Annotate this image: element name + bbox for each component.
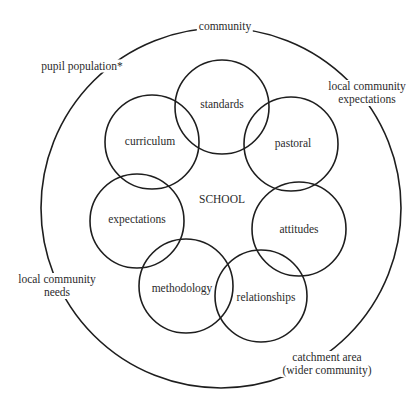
label-local-community-needs: local community needs [16, 273, 98, 299]
label-line: expectations [328, 93, 406, 106]
label-pastoral: pastoral [273, 137, 313, 150]
label-standards: standards [198, 98, 245, 111]
label-pupil-population: pupil population* [39, 60, 124, 73]
label-line: catchment area [282, 351, 371, 364]
label-relationships: relationships [235, 291, 298, 304]
label-community: community [197, 20, 253, 33]
label-local-community-expectations: local community expectations [326, 80, 408, 106]
label-expectations: expectations [106, 213, 167, 226]
label-line: local community [18, 273, 96, 286]
label-curriculum: curriculum [123, 135, 177, 148]
label-school-center: SCHOOL [197, 193, 247, 206]
label-attitudes: attitudes [278, 223, 321, 236]
label-methodology: methodology [150, 282, 215, 295]
label-line: local community [328, 80, 406, 93]
label-line: (wider community) [282, 364, 371, 377]
label-catchment-area: catchment area (wider community) [280, 351, 373, 377]
label-line: needs [18, 286, 96, 299]
